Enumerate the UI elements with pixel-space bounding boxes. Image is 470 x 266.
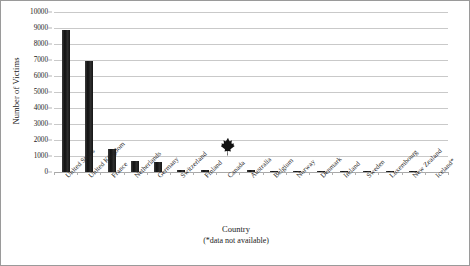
chart-frame: Number of Victims 0100020003000400050006… bbox=[0, 0, 470, 266]
y-tick-label: 6000 bbox=[34, 72, 48, 80]
gridline bbox=[54, 124, 448, 125]
y-tick-label: 9000 bbox=[34, 24, 48, 32]
y-tick-mark bbox=[48, 108, 52, 109]
y-tick-label: 1000 bbox=[34, 152, 48, 160]
x-axis-title-text: Country bbox=[1, 224, 470, 235]
y-tick-label: 2000 bbox=[34, 136, 48, 144]
y-tick-mark bbox=[48, 92, 52, 93]
gridline bbox=[54, 60, 448, 61]
x-axis-title: Country (*data not available) bbox=[1, 224, 470, 246]
y-tick-mark bbox=[48, 12, 52, 13]
y-tick-label: 4000 bbox=[34, 104, 48, 112]
y-tick-mark bbox=[48, 140, 52, 141]
y-tick-mark bbox=[48, 28, 52, 29]
y-tick-label: 8000 bbox=[34, 40, 48, 48]
gridline bbox=[54, 108, 448, 109]
y-tick-label: 7000 bbox=[34, 56, 48, 64]
y-tick-mark bbox=[48, 172, 52, 173]
y-tick-mark bbox=[48, 76, 52, 77]
gridline bbox=[54, 76, 448, 77]
bar bbox=[62, 30, 70, 172]
y-tick-mark bbox=[48, 156, 52, 157]
gridline bbox=[54, 12, 448, 13]
y-tick-mark bbox=[48, 124, 52, 125]
y-tick-mark bbox=[48, 60, 52, 61]
y-tick-label: 10000 bbox=[30, 8, 48, 16]
y-axis-ticks: 0100020003000400050006000700080009000100… bbox=[1, 12, 51, 172]
y-tick-label: 3000 bbox=[34, 120, 48, 128]
x-axis-category-labels: United StatesUnited KingdomFranceNetherl… bbox=[1, 174, 470, 222]
gridline bbox=[54, 44, 448, 45]
gridline bbox=[54, 140, 448, 141]
gridline bbox=[54, 28, 448, 29]
y-tick-mark bbox=[48, 44, 52, 45]
x-axis-title-note: (*data not available) bbox=[1, 235, 470, 246]
gridline bbox=[54, 92, 448, 93]
y-tick-label: 5000 bbox=[34, 88, 48, 96]
maple-leaf-icon bbox=[219, 137, 236, 156]
